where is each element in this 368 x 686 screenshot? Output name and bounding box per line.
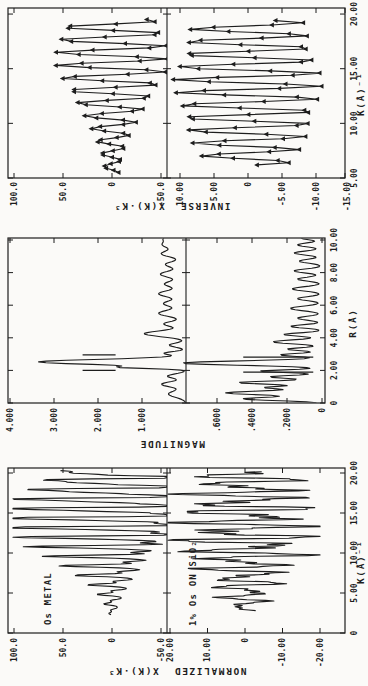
triangle-marker [164, 56, 169, 61]
triangle-marker [120, 118, 125, 123]
y-tick-label: 0 [318, 408, 327, 413]
triangle-marker [126, 133, 131, 138]
triangle-marker [140, 107, 145, 112]
triangle-marker [190, 141, 195, 146]
y-tick-label: 10.00 [176, 182, 185, 206]
y-tick-label: 2.000 [94, 408, 103, 432]
triangle-marker [303, 47, 308, 52]
triangle-marker [133, 120, 138, 125]
triangle-marker [102, 35, 107, 40]
y-tick-label: -50.0 [157, 638, 166, 662]
triangle-marker [272, 145, 277, 150]
triangle-marker [110, 148, 115, 153]
triangle-marker [290, 73, 295, 78]
triangle-marker [147, 45, 152, 50]
os-on-sio2-inverse-markers [170, 18, 323, 167]
triangle-marker [113, 85, 118, 90]
triangle-marker [153, 83, 158, 88]
y-tick-label: 50.0 [59, 638, 68, 657]
triangle-marker [152, 32, 157, 37]
triangle-marker [162, 70, 167, 75]
y-tick-label: 20.00 [166, 638, 175, 662]
triangle-marker [304, 33, 309, 38]
triangle-marker [319, 84, 324, 89]
triangle-marker [83, 102, 88, 107]
triangle-marker [269, 23, 274, 28]
triangle-marker [252, 55, 257, 60]
y-tick-label: .4000 [248, 408, 257, 432]
triangle-marker [89, 126, 94, 131]
triangle-marker [60, 76, 65, 81]
triangle-marker [231, 62, 236, 67]
triangle-marker [111, 168, 116, 173]
triangle-marker [303, 134, 308, 139]
triangle-marker [180, 103, 185, 108]
triangle-marker [187, 27, 192, 32]
triangle-marker [286, 31, 291, 36]
triangle-marker [120, 131, 125, 136]
triangle-marker [267, 68, 272, 73]
os-metal-annotation: Os METAL [43, 572, 53, 625]
triangle-marker [144, 67, 149, 72]
y-tick-label: -10.00 [278, 638, 287, 667]
triangle-marker [276, 86, 281, 91]
triangle-marker [199, 154, 204, 159]
x-tick-label: 4.00 [330, 328, 339, 347]
triangle-marker [237, 106, 242, 111]
triangle-marker [152, 19, 157, 24]
y-tick-label: 0 [108, 638, 117, 643]
triangle-marker [87, 65, 92, 70]
triangle-marker [59, 37, 64, 42]
triangle-marker [177, 64, 182, 69]
y-tick-label: -15.00 [343, 182, 352, 211]
triangle-marker [196, 66, 201, 71]
triangle-marker [108, 161, 113, 166]
triangle-marker [222, 138, 227, 143]
triangle-marker [283, 82, 288, 87]
figure-canvas: 05.0010.0015.0020.00K(Å)⁻¹NORMALIZED X(K… [0, 0, 368, 686]
triangle-marker [261, 99, 266, 104]
triangle-marker [286, 160, 291, 165]
scanned-figure-page: 05.0010.0015.0020.00K(Å)⁻¹NORMALIZED X(K… [0, 0, 368, 686]
triangle-marker [116, 170, 121, 175]
os-metal-curve [13, 471, 167, 615]
y-tick-label: 0 [108, 182, 117, 187]
triangle-marker [97, 124, 102, 129]
triangle-marker [82, 113, 87, 118]
triangle-marker [300, 20, 305, 25]
triangle-marker [99, 111, 104, 116]
triangle-marker [254, 162, 259, 167]
triangle-marker [90, 48, 95, 53]
y-tick-label: 0 [244, 182, 253, 187]
triangle-marker [99, 78, 104, 83]
triangle-marker [246, 112, 251, 117]
triangle-marker [134, 54, 139, 59]
y-tick-label: -50.0 [157, 182, 166, 206]
y-tick-label: -10.00 [312, 182, 321, 211]
triangle-marker [216, 152, 221, 157]
x-axis-title: R(Å) [347, 308, 358, 337]
y-tick-label: 0 [241, 638, 250, 643]
triangle-marker [201, 88, 206, 93]
x-tick-label: 20.00 [350, 2, 359, 26]
x-tick-label: 0 [330, 400, 339, 405]
triangle-marker [186, 51, 191, 56]
triangle-marker [232, 125, 237, 130]
triangle-marker [317, 71, 322, 76]
triangle-marker [109, 155, 114, 160]
triangle-marker [75, 100, 80, 105]
triangle-marker [314, 97, 319, 102]
y-tick-label: .2000 [283, 408, 292, 432]
x-tick-label: 5.00 [350, 583, 359, 602]
y-tick-label: .6000 [213, 408, 222, 432]
y-tick-label: 3.000 [50, 408, 59, 432]
triangle-marker [53, 63, 58, 68]
triangle-marker [125, 72, 130, 77]
triangle-marker [298, 44, 303, 49]
rotated-figure-stage: 05.0010.0015.0020.00K(Å)⁻¹NORMALIZED X(K… [0, 0, 368, 686]
triangle-marker [129, 109, 134, 114]
triangle-marker [294, 95, 299, 100]
triangle-marker [186, 127, 191, 132]
y-tick-label: 100.0 [10, 182, 19, 206]
triangle-marker [203, 130, 208, 135]
